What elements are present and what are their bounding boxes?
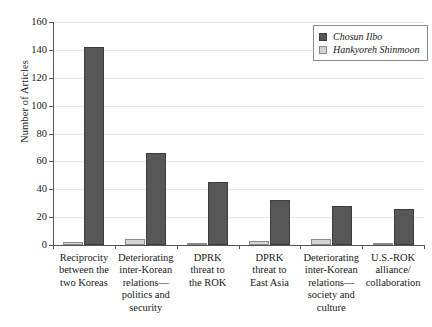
x-axis-label-line: between the [53, 264, 115, 276]
x-axis-label-line: DPRK [239, 252, 301, 264]
x-axis-tick-mark [239, 245, 240, 249]
gridline [53, 22, 424, 23]
bar-chosun-ilbo [394, 209, 414, 245]
x-axis-label-line: inter-Korean [115, 264, 177, 276]
x-axis-label-line: politics and [115, 289, 177, 301]
y-axis-tick-label: 80 [37, 128, 48, 139]
y-axis-tick-label: 140 [31, 45, 47, 56]
x-axis-label-line: relations— [115, 277, 177, 289]
x-axis-label-line: the ROK [177, 277, 239, 289]
bar-chosun-ilbo [270, 200, 290, 245]
y-axis-line [53, 22, 54, 245]
x-axis-category-label: Deterioratinginter-Koreanrelations—polit… [115, 252, 177, 314]
x-axis-category-label: Reciprocitybetween thetwo Koreas [53, 252, 115, 289]
gridline [53, 161, 424, 162]
legend-item-chosun-ilbo: Chosun Ilbo [319, 30, 420, 43]
legend-swatch-icon [319, 46, 327, 54]
x-axis-label-line: security [115, 302, 177, 314]
gridline [53, 217, 424, 218]
legend-item-hankyoreh-shinmoon: Hankyoreh Shinmoon [319, 43, 420, 56]
x-axis-label-line: DPRK [177, 252, 239, 264]
bar-chosun-ilbo [332, 206, 352, 245]
x-axis-tick-mark [53, 245, 54, 249]
y-axis-tick-label: 0 [42, 240, 47, 251]
x-axis-label-line: alliance/ [362, 264, 424, 276]
bar-group [249, 22, 290, 245]
x-axis-category-label: Deterioratinginter-Koreanrelations—socie… [300, 252, 362, 314]
y-axis-tick-label: 160 [31, 17, 47, 28]
x-axis-label-line: Deteriorating [300, 252, 362, 264]
legend-swatch-icon [319, 33, 327, 41]
bar-chosun-ilbo [84, 47, 104, 245]
x-axis-label-line: society and [300, 289, 362, 301]
gridline [53, 106, 424, 107]
x-axis-labels: Reciprocitybetween thetwo KoreasDeterior… [53, 252, 424, 324]
x-axis-label-line: U.S.-ROK [362, 252, 424, 264]
y-axis-tick-label: 120 [31, 73, 47, 84]
x-axis-tick-mark [362, 245, 363, 249]
x-axis-tick-mark [300, 245, 301, 249]
y-axis-tick-label: 60 [37, 156, 48, 167]
x-axis-label-line: East Asia [239, 277, 301, 289]
y-axis-tick-label: 100 [31, 100, 47, 111]
bar-group [187, 22, 228, 245]
x-axis-category-label: DPRKthreat toEast Asia [239, 252, 301, 289]
x-axis-tick-mark [424, 245, 425, 249]
legend-label: Hankyoreh Shinmoon [333, 45, 420, 55]
y-axis-tick-label: 20 [37, 212, 48, 223]
x-axis-label-line: culture [300, 302, 362, 314]
x-axis-tick-mark [115, 245, 116, 249]
bar-chosun-ilbo [208, 182, 228, 245]
bar-group [125, 22, 166, 245]
x-axis-label-line: threat to [177, 264, 239, 276]
y-axis-title: Number of Articles [19, 22, 30, 182]
x-axis-label-line: threat to [239, 264, 301, 276]
x-axis-category-label: DPRKthreat tothe ROK [177, 252, 239, 289]
legend-label: Chosun Ilbo [333, 32, 382, 42]
gridline [53, 134, 424, 135]
bar-chart: Number of Articles 020406080100120140160… [0, 0, 432, 327]
x-axis-category-label: U.S.-ROKalliance/collaboration [362, 252, 424, 289]
bar-group [63, 22, 104, 245]
x-axis-label-line: Reciprocity [53, 252, 115, 264]
bar-chosun-ilbo [146, 153, 166, 245]
x-axis-label-line: Deteriorating [115, 252, 177, 264]
x-axis-label-line: relations— [300, 277, 362, 289]
x-axis-label-line: two Koreas [53, 277, 115, 289]
y-axis-tick-label: 40 [37, 184, 48, 195]
x-axis-tick-mark [177, 245, 178, 249]
gridline [53, 78, 424, 79]
x-axis-label-line: collaboration [362, 277, 424, 289]
x-axis-label-line: inter-Korean [300, 264, 362, 276]
gridline [53, 189, 424, 190]
chart-legend: Chosun Ilbo Hankyoreh Shinmoon [313, 25, 428, 61]
